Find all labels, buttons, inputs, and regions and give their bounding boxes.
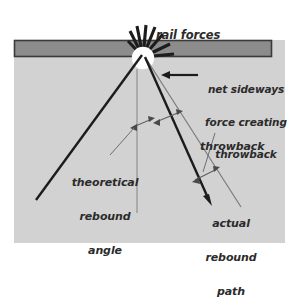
label-rail-forces-text: rail forces (156, 30, 220, 42)
label-throwback-text: throwback (200, 141, 264, 152)
label-theoretical-line3: angle (59, 245, 151, 256)
label-actual-line1: actual (199, 218, 263, 229)
label-theoretical-line2: rebound (59, 211, 151, 222)
label-actual-rebound-path: actual rebound path (199, 196, 263, 301)
label-theoretical-line1: theoretical (59, 177, 151, 188)
label-rail-forces: rail forces (156, 7, 220, 66)
label-theoretical-rebound-angle: theoretical rebound angle (59, 155, 151, 278)
label-actual-line2: rebound (199, 252, 263, 263)
label-actual-line3: path (199, 286, 263, 297)
label-net-line1: net sideways (200, 84, 292, 95)
label-throwback: throwback (200, 119, 264, 175)
